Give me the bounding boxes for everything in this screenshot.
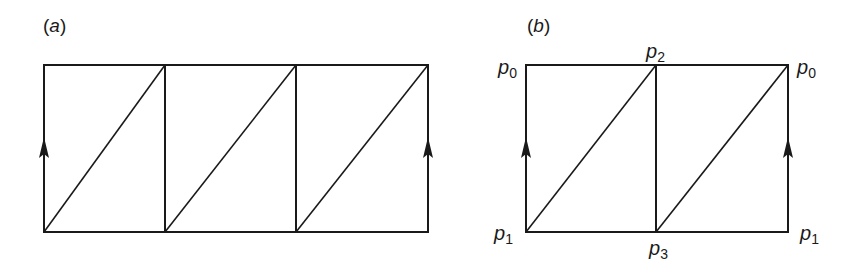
- diagonal-2: [656, 65, 788, 232]
- panel-a-label: (a): [43, 15, 66, 36]
- triangulation-figure: (a) (b) p0 p2 p0 p1 p3 p1: [0, 0, 856, 274]
- diagonal-1: [44, 65, 165, 232]
- panel-b-label: (b): [527, 15, 550, 36]
- panel-a: (a): [39, 15, 433, 232]
- diagonal-2: [165, 65, 296, 232]
- vertex-label-bottom-middle: p3: [648, 237, 668, 262]
- vertex-label-bottom-left: p1: [493, 222, 513, 247]
- diagonal-1: [526, 65, 656, 232]
- panel-b: (b) p0 p2 p0 p1 p3 p1: [493, 15, 819, 262]
- vertex-label-top-middle: p2: [645, 40, 665, 65]
- vertex-label-top-right: p0: [796, 56, 816, 81]
- vertex-label-top-left: p0: [497, 56, 517, 81]
- diagonal-3: [296, 65, 428, 232]
- vertex-label-bottom-right: p1: [799, 222, 819, 247]
